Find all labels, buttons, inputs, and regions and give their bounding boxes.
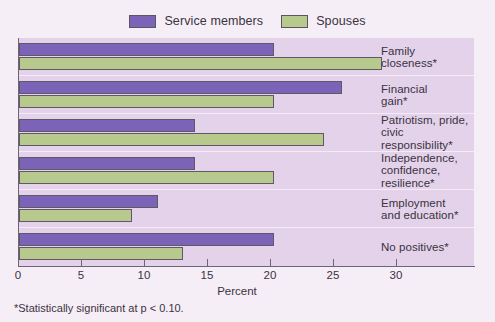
x-axis-tick-label: 25 — [327, 269, 340, 281]
bar-row: No positives* — [19, 228, 474, 266]
x-axis-tick — [81, 259, 82, 266]
plot-area: Family closeness*Financial gain*Patrioti… — [18, 38, 474, 266]
x-axis-tick — [270, 259, 271, 266]
legend-label-service-members: Service members — [164, 14, 263, 28]
bar-service-members — [19, 81, 342, 94]
x-axis-title: Percent — [0, 285, 474, 297]
chart-footnote: *Statistically significant at p < 0.10. — [14, 302, 184, 314]
bar-service-members — [19, 157, 195, 170]
x-axis-tick — [144, 259, 145, 266]
bar-spouses — [19, 209, 132, 222]
legend-item-spouses: Spouses — [281, 14, 365, 28]
chart-legend: Service members Spouses — [0, 10, 495, 32]
bar-row: Financial gain* — [19, 76, 474, 114]
bar-service-members — [19, 43, 274, 56]
bar-spouses — [19, 171, 274, 184]
bar-spouses — [19, 57, 382, 70]
bar-spouses — [19, 95, 274, 108]
bar-service-members — [19, 233, 274, 246]
x-axis-line — [18, 266, 475, 267]
bar-spouses — [19, 247, 183, 260]
bar-row: Employment and education* — [19, 190, 474, 228]
x-axis-tick-label: 5 — [78, 269, 84, 281]
x-axis-tick-label: 20 — [264, 269, 277, 281]
category-label: Family closeness* — [381, 44, 437, 69]
x-axis-tick — [333, 259, 334, 266]
x-axis-tick-label: 15 — [201, 269, 214, 281]
x-axis-tick-label: 10 — [138, 269, 151, 281]
bar-service-members — [19, 195, 158, 208]
category-label: Employment and education* — [381, 196, 458, 221]
legend-label-spouses: Spouses — [316, 14, 365, 28]
legend-item-service-members: Service members — [129, 14, 263, 28]
category-label: Independence, confidence, resilience* — [381, 152, 458, 190]
legend-swatch-spouses — [281, 15, 308, 28]
bar-row: Independence, confidence, resilience* — [19, 152, 474, 190]
x-axis-tick — [207, 259, 208, 266]
x-axis-tick — [396, 259, 397, 266]
bar-row: Family closeness* — [19, 38, 474, 76]
x-axis-tick — [18, 259, 19, 266]
bar-row: Patriotism, pride, civic responsibility* — [19, 114, 474, 152]
bar-service-members — [19, 119, 195, 132]
legend-swatch-service-members — [129, 15, 156, 28]
category-label: Patriotism, pride, civic responsibility* — [381, 114, 474, 152]
x-axis-tick-label: 30 — [390, 269, 403, 281]
category-label: No positives* — [381, 241, 449, 254]
bar-spouses — [19, 133, 324, 146]
bar-rows: Family closeness*Financial gain*Patrioti… — [19, 38, 474, 266]
category-label: Financial gain* — [381, 82, 427, 107]
x-axis-tick-label: 0 — [15, 269, 21, 281]
